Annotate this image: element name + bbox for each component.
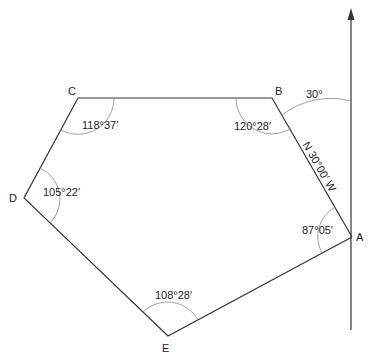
north-angle-label: 30° <box>306 89 323 100</box>
angle-arc-E <box>143 302 198 320</box>
north-arrow-icon <box>348 8 355 20</box>
vertex-label-D: D <box>9 193 17 204</box>
angle-label-A: 87°05′ <box>302 225 333 236</box>
angle-label-E: 108°28′ <box>155 290 192 301</box>
angle-label-D: 105°22′ <box>43 187 80 198</box>
vertex-label-B: B <box>275 86 282 97</box>
bearing-arc-30 <box>282 98 351 115</box>
vertex-label-C: C <box>68 86 76 97</box>
vertex-label-E: E <box>162 343 169 354</box>
vertex-label-A: A <box>356 232 363 243</box>
angle-label-B: 120°28′ <box>234 121 271 132</box>
traverse-diagram <box>0 0 375 363</box>
angle-label-C: 118°37′ <box>82 120 118 131</box>
